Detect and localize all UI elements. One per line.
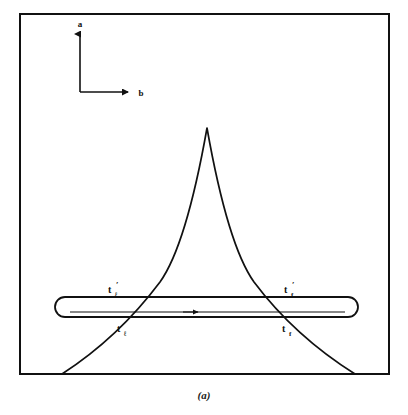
label-t-prime-ell-prime: ′ — [116, 280, 119, 290]
label-t-prime-f-prime: ′ — [292, 280, 295, 290]
label-t-ell-subscript: ℓ — [123, 330, 127, 338]
figure-svg-canvas: a b t ′ ℓ t ℓ t ′ f t f — [0, 0, 408, 415]
axis-label-b: b — [138, 88, 143, 98]
figure-container: a b t ′ ℓ t ℓ t ′ f t f — [0, 0, 408, 415]
axis-label-a: a — [78, 19, 83, 29]
figure-caption: (a) — [198, 389, 211, 402]
label-t-prime-ell-subscript: ℓ — [114, 291, 118, 299]
figure-border — [20, 14, 389, 374]
